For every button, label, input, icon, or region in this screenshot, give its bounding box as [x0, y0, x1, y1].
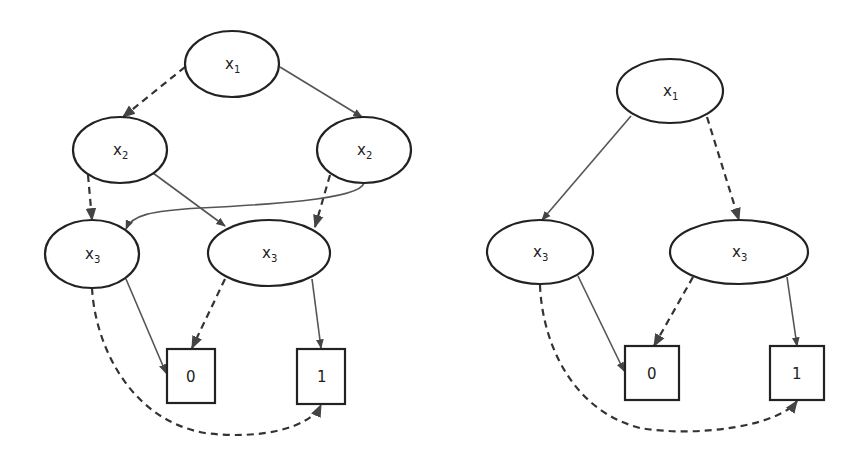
- node-x3-right: x3: [208, 220, 330, 286]
- edge-x3right-1-solid: [312, 279, 321, 348]
- node-x3-left: x3: [45, 220, 139, 288]
- edge-x2left-x3right-solid: [153, 173, 225, 226]
- node-x3-left: x3: [487, 220, 593, 284]
- node-x2-left: x2: [73, 117, 167, 183]
- svg-text:1: 1: [792, 365, 802, 383]
- edge-x2left-x3left-dashed: [88, 175, 92, 220]
- terminal-1: 1: [297, 349, 345, 404]
- edge-x3right-0-dashed: [192, 279, 225, 348]
- edge-x1-x3right-dashed: [707, 117, 739, 220]
- edge-x2right-x3right-dashed: [315, 175, 330, 227]
- svg-text:0: 0: [186, 368, 196, 386]
- node-x2-right: x2: [317, 117, 411, 183]
- terminal-0: 0: [625, 346, 679, 400]
- edge-x3right-0-dashed: [654, 277, 693, 346]
- terminal-0: 0: [167, 349, 215, 403]
- left-diagram: x1 x2 x2 x3 x3 0 1: [45, 31, 411, 435]
- edge-x1-x2left-dashed: [123, 67, 185, 117]
- edge-x1-x3left-solid: [542, 116, 631, 220]
- edge-x1-x2right-solid: [280, 67, 362, 117]
- node-x1: x1: [617, 59, 723, 123]
- node-x1: x1: [185, 31, 279, 97]
- edge-x3left-0-solid: [578, 276, 624, 371]
- bdd-figure: x1 x2 x2 x3 x3 0 1: [0, 0, 862, 458]
- svg-text:0: 0: [647, 365, 657, 383]
- node-x3-right: x3: [670, 220, 808, 284]
- edge-x3right-1-solid: [787, 277, 797, 346]
- right-diagram: x1 x3 x3 0 1: [487, 59, 824, 431]
- edge-x3left-0-solid: [126, 279, 166, 373]
- terminal-1: 1: [770, 346, 824, 400]
- svg-text:1: 1: [317, 368, 327, 386]
